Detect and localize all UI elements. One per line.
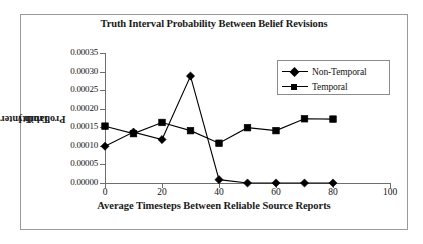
legend-item-temporal[interactable]: Temporal [282, 79, 385, 94]
legend-label-non-temporal: Non-Temporal [312, 67, 367, 77]
legend-line-temporal [282, 86, 308, 87]
y-tick-label: 0.00025 [48, 85, 98, 94]
square-marker-icon [291, 84, 297, 90]
legend-label-temporal: Temporal [312, 82, 347, 92]
chart-figure: Truth Interval Probability Between Belie… [0, 0, 423, 244]
x-tick-label: 100 [375, 187, 405, 197]
legend-item-non-temporal[interactable]: Non-Temporal [282, 64, 385, 79]
x-tick-label: 0 [90, 187, 120, 197]
data-point-diamond [158, 135, 166, 143]
data-point-diamond [186, 72, 194, 80]
legend: Non-Temporal Temporal [277, 60, 390, 95]
data-point-square [187, 127, 194, 134]
data-point-square [159, 119, 166, 126]
y-tick-label: 0.00030 [48, 67, 98, 76]
x-tick-label: 20 [147, 187, 177, 197]
diamond-marker-icon [290, 67, 300, 77]
x-axis-title: Average Timesteps Between Reliable Sourc… [20, 200, 408, 211]
y-tick-label: 0.00010 [48, 141, 98, 150]
data-point-square [216, 140, 223, 147]
chart-title: Truth Interval Probability Between Belie… [20, 18, 408, 29]
series-line-temporal [105, 119, 333, 144]
data-point-square [301, 115, 308, 122]
legend-line-non-temporal [282, 71, 308, 72]
data-point-square [273, 127, 280, 134]
x-tick-label: 60 [261, 187, 291, 197]
x-tick-label: 40 [204, 187, 234, 197]
data-point-square [330, 116, 337, 123]
x-tick-label: 80 [318, 187, 348, 197]
data-point-square [102, 123, 109, 130]
y-axis-title: Truth IntervalProbability [17, 60, 43, 178]
y-tick-label: 0.00020 [48, 104, 98, 113]
data-point-square [244, 124, 251, 131]
y-tick-label: 0.00000 [48, 178, 98, 187]
y-tick-label: 0.00015 [48, 122, 98, 131]
y-tick-label: 0.00035 [48, 48, 98, 57]
y-tick-label: 0.00005 [48, 159, 98, 168]
data-point-diamond [215, 176, 223, 184]
data-point-square [130, 130, 137, 137]
